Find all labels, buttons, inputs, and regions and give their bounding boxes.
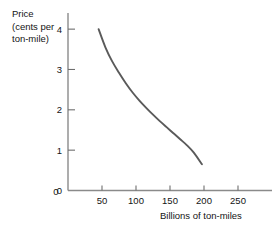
x-tick-label: 0 bbox=[53, 186, 58, 197]
y-tick-label: 3 bbox=[57, 64, 62, 75]
demand-curve bbox=[99, 29, 202, 164]
x-tick-label: 150 bbox=[162, 195, 178, 206]
chart-figure: Price (cents per ton-mile) 01234 0501001… bbox=[0, 0, 278, 233]
y-tick-label: 4 bbox=[57, 24, 62, 35]
plot-area: 01234 050100150200250 Billions of ton-mi… bbox=[0, 0, 278, 233]
x-tick-group: 050100150200250 bbox=[53, 186, 246, 206]
y-tick-label: 2 bbox=[57, 104, 62, 115]
x-axis-title: Billions of ton-miles bbox=[160, 210, 242, 221]
y-tick-label: 1 bbox=[57, 145, 62, 156]
x-tick-label: 250 bbox=[230, 195, 246, 206]
axes-group bbox=[68, 13, 272, 191]
x-tick-label: 100 bbox=[128, 195, 144, 206]
y-tick-group: 01234 bbox=[57, 24, 75, 196]
x-tick-label: 200 bbox=[196, 195, 212, 206]
x-tick-label: 50 bbox=[97, 195, 108, 206]
data-curve-group bbox=[99, 29, 202, 164]
